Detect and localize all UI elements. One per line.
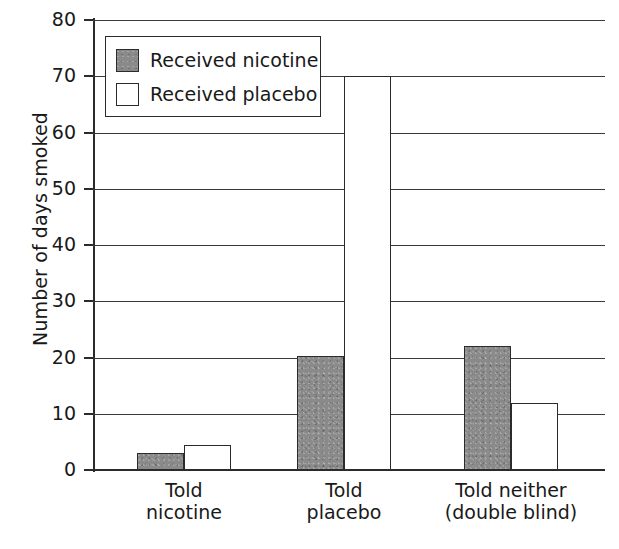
y-axis-tick-label: 40 bbox=[26, 235, 76, 254]
legend: Received nicotine Received placebo bbox=[105, 36, 321, 117]
y-axis-tick-label: 0 bbox=[26, 460, 76, 479]
y-axis-tick-label: 50 bbox=[26, 179, 76, 198]
y-axis-tick-mark bbox=[84, 300, 93, 302]
bar-received-nicotine bbox=[137, 453, 184, 470]
legend-item-label: Received placebo bbox=[150, 83, 317, 105]
y-axis-tick-label: 70 bbox=[26, 66, 76, 85]
y-axis-tick-mark bbox=[84, 244, 93, 246]
y-axis-tick-mark bbox=[84, 132, 93, 134]
bar-chart: Number of days smoked 01020304050607080 … bbox=[0, 0, 619, 549]
bar-received-placebo bbox=[184, 445, 231, 470]
y-axis-tick-label: 20 bbox=[26, 348, 76, 367]
y-axis-tick-label: 60 bbox=[26, 123, 76, 142]
bar-received-placebo bbox=[344, 76, 391, 470]
filled-gray-swatch-icon bbox=[116, 49, 139, 72]
y-axis-tick-label: 10 bbox=[26, 404, 76, 423]
y-axis-tick-mark bbox=[84, 19, 93, 21]
gridline bbox=[93, 20, 605, 21]
x-axis-category-label: Told neither(double blind) bbox=[401, 479, 619, 524]
legend-item-received-nicotine: Received nicotine bbox=[116, 43, 320, 77]
bar-received-nicotine bbox=[464, 346, 511, 470]
y-axis-title: Number of days smoked bbox=[29, 69, 51, 389]
y-axis-tick-mark bbox=[84, 188, 93, 190]
y-axis-tick-mark bbox=[84, 357, 93, 359]
y-axis-tick-mark bbox=[84, 469, 93, 471]
legend-item-label: Received nicotine bbox=[150, 49, 318, 71]
empty-white-swatch-icon bbox=[116, 83, 139, 106]
y-axis-tick-label: 80 bbox=[26, 10, 76, 29]
bar-received-placebo bbox=[511, 403, 558, 471]
y-axis-tick-mark bbox=[84, 413, 93, 415]
y-axis-tick-mark bbox=[84, 75, 93, 77]
legend-item-received-placebo: Received placebo bbox=[116, 77, 320, 111]
bar-received-nicotine bbox=[297, 356, 344, 470]
x-axis-category-label-line: Told neither bbox=[401, 479, 619, 501]
y-axis-tick-label: 30 bbox=[26, 291, 76, 310]
x-axis-category-label-line: (double blind) bbox=[401, 501, 619, 523]
